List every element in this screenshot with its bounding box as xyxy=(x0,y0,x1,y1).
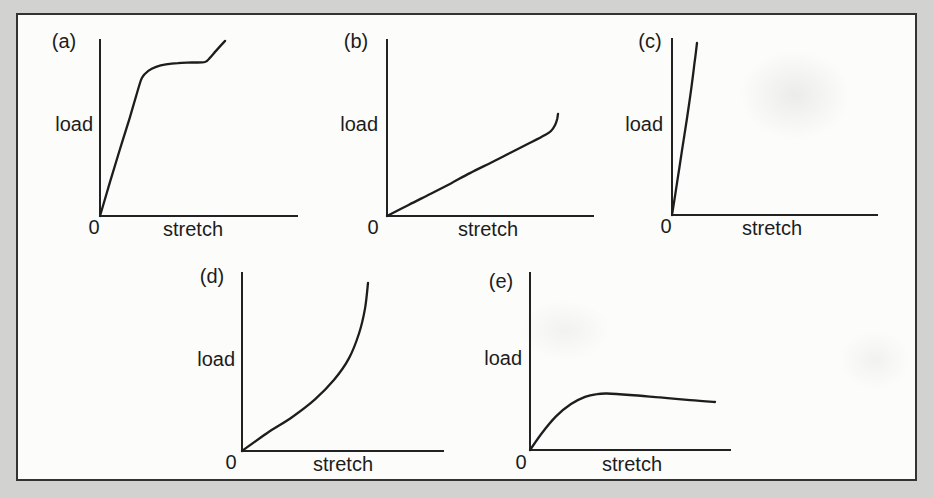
y-axis-label-d: load xyxy=(197,348,235,370)
load-stretch-curve-e xyxy=(530,393,715,450)
x-axis-label-b: stretch xyxy=(458,218,518,240)
y-axis-label-b: load xyxy=(340,113,378,135)
panel-label-a: (a) xyxy=(52,30,76,52)
graph-panel-a: (a) load 0 stretch xyxy=(52,30,297,240)
load-stretch-curve-c xyxy=(672,43,697,215)
x-axis-label-d: stretch xyxy=(313,453,373,475)
axes-a xyxy=(100,40,297,216)
origin-label-c: 0 xyxy=(660,215,671,237)
x-axis-label-e: stretch xyxy=(602,453,662,475)
y-axis-label-c: load xyxy=(625,113,663,135)
graph-panel-e: (e) load 0 stretch xyxy=(484,270,730,475)
axes-d xyxy=(242,273,443,451)
origin-label-b: 0 xyxy=(367,216,378,238)
x-axis-label-c: stretch xyxy=(742,217,802,239)
graph-panel-d: (d) load 0 stretch xyxy=(197,265,443,475)
y-axis-label-e: load xyxy=(484,347,522,369)
graph-panel-b: (b) load 0 stretch xyxy=(340,30,593,240)
panel-label-d: (d) xyxy=(200,265,224,287)
figure: (a) load 0 stretch (b) load 0 stretch (c… xyxy=(0,0,934,498)
load-stretch-curve-b xyxy=(387,114,558,216)
panel-label-e: (e) xyxy=(489,270,513,292)
panel-label-c: (c) xyxy=(638,30,661,52)
origin-label-a: 0 xyxy=(88,216,99,238)
graph-panel-c: (c) load 0 stretch xyxy=(625,30,877,239)
y-axis-label-a: load xyxy=(55,113,93,135)
load-stretch-curve-d xyxy=(242,283,368,451)
axes-c xyxy=(672,39,877,215)
origin-label-d: 0 xyxy=(225,451,236,473)
axes-e xyxy=(530,273,730,450)
graphs-canvas: (a) load 0 stretch (b) load 0 stretch (c… xyxy=(0,0,934,498)
x-axis-label-a: stretch xyxy=(163,218,223,240)
panel-label-b: (b) xyxy=(344,30,368,52)
origin-label-e: 0 xyxy=(515,451,526,473)
axes-b xyxy=(387,40,593,216)
load-stretch-curve-a xyxy=(100,41,225,216)
